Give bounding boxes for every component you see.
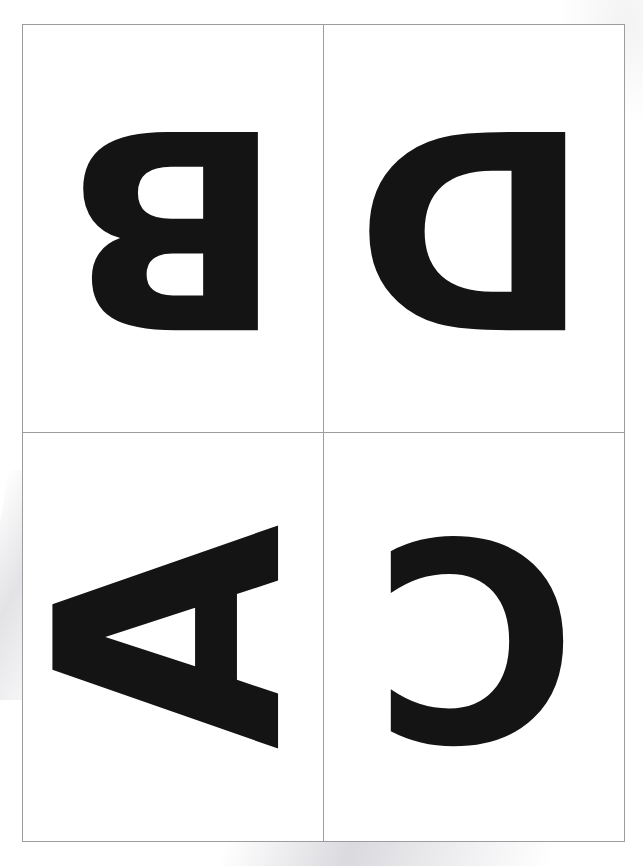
letter-grid: B D A C [23,25,624,841]
worksheet-sheet: B D A C [22,24,625,842]
footer-credit-line [22,853,625,865]
glyph-wrap-a: A [23,433,323,841]
glyph-wrap-b: B [23,25,323,432]
glyph-wrap-c: C [324,433,625,841]
letter-glyph-d: D [354,90,591,362]
letter-cell-bottom-left[interactable]: A [23,433,324,841]
letter-cell-top-left[interactable]: B [23,25,324,433]
letter-glyph-a: A [23,524,324,750]
letter-cell-top-right[interactable]: D [324,25,625,433]
letter-cell-bottom-right[interactable]: C [324,433,625,841]
letter-glyph-b: B [63,90,285,362]
letter-glyph-c: C [373,497,577,775]
glyph-wrap-d: D [324,25,625,432]
